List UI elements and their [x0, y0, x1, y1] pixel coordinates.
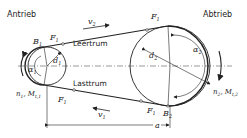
force-point: [140, 100, 143, 103]
symbol-d1: d1: [53, 56, 61, 66]
force-point: [62, 43, 65, 46]
rotation-arrow-left: [21, 57, 23, 76]
force-point: [73, 89, 76, 92]
belt-drive-diagram: Antrieb Abtrieb Leertrum Lasttrum a B1 F…: [0, 0, 247, 138]
symbol-F1-bottom-left: F1: [57, 95, 67, 105]
radius-line: [168, 26, 170, 66]
label-a: a: [155, 121, 160, 130]
symbol-F1-top-right: F1: [150, 12, 160, 22]
symbol-alpha1: α1: [28, 65, 37, 75]
label-abtrieb: Abtrieb: [203, 10, 232, 19]
symbol-alpha2: α2: [193, 45, 202, 55]
symbol-d2: d2: [149, 51, 157, 61]
symbol-B1: B1: [32, 37, 42, 47]
symbol-F1-bottom-right: F1: [146, 106, 156, 116]
rotation-arrow-right: [219, 51, 221, 80]
label-lasttrum: Lasttrum: [73, 79, 107, 88]
symbol-F1-top-left: F1: [49, 33, 59, 43]
symbol-v2: v2: [88, 17, 96, 27]
label-antrieb: Antrieb: [7, 10, 36, 19]
symbol-n1-M1: n1, Mt,1: [16, 90, 41, 99]
symbol-n2-M2: n2, Mt,2: [213, 88, 238, 97]
symbol-B2: B2: [162, 109, 172, 119]
label-leertrum: Leertrum: [73, 39, 107, 48]
velocity-arrow-v2: [83, 25, 109, 29]
radius-line: [168, 66, 170, 106]
radius-line: [44, 47, 47, 66]
force-point: [146, 29, 149, 32]
radius-line: [44, 66, 47, 85]
symbol-v1: v1: [98, 110, 106, 120]
wrap-angle-alpha2: [174, 35, 205, 97]
